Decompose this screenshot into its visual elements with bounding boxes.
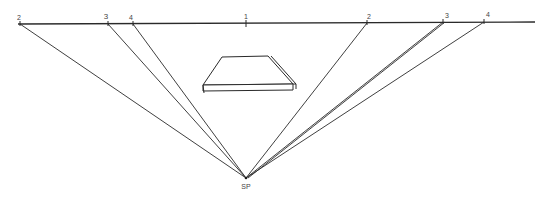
slab-top-face <box>203 56 293 85</box>
slab-object <box>203 56 296 93</box>
label-point-4-left: 4 <box>129 14 133 21</box>
label-point-2-right: 2 <box>367 13 371 20</box>
projection-line-3-right <box>246 22 443 178</box>
projection-line-4-left <box>133 24 246 178</box>
station-point-dot <box>245 177 248 180</box>
horizon-line <box>18 22 535 24</box>
projection-line-4-right <box>246 22 484 178</box>
label-point-2-left: 2 <box>17 14 21 21</box>
label-point-3-left: 3 <box>104 13 108 21</box>
projection-line-3-left <box>108 24 246 178</box>
projection-lines <box>20 22 484 178</box>
label-center-1: 1 <box>244 13 248 20</box>
label-point-3-right: 3 <box>445 12 449 19</box>
projection-line-3-right-b <box>248 22 445 178</box>
label-station-point: SP <box>241 183 250 190</box>
projection-line-2-left <box>20 24 246 178</box>
label-point-4-right: 4 <box>486 11 490 18</box>
perspective-diagram <box>0 0 552 204</box>
projection-line-2-right <box>246 23 367 178</box>
slab-front-face <box>203 84 293 91</box>
